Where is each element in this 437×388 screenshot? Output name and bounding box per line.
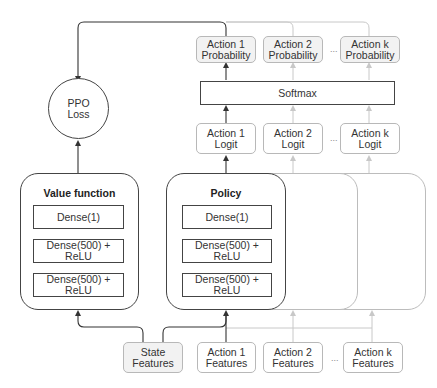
node-line2: Logit (207, 139, 245, 150)
value-layer-dense-500-b: Dense(500) + ReLU (33, 273, 124, 297)
probability-node-action-1: Action 1Probability (196, 36, 256, 63)
node-line1: Action 2 (272, 347, 313, 358)
policy-layer-dense-1: Dense(1) (182, 205, 272, 229)
node-line1: State (132, 347, 173, 358)
node-line1: Action 1 (206, 347, 247, 358)
node-line2: Logit (274, 139, 312, 150)
state-features-node: StateFeatures (123, 342, 183, 373)
logit-node-action-1: Action 1Logit (196, 123, 256, 154)
ppo-loss-line1: PPO (67, 98, 89, 109)
node-line2: Features (206, 358, 247, 369)
node-line1: Action 1 (201, 39, 250, 50)
probability-node-action-k: Action kProbability (340, 36, 400, 63)
ellipsis-logits: ... (330, 133, 338, 143)
ellipsis-features: ... (331, 353, 339, 363)
node-line2: Probability (268, 50, 317, 61)
node-line1: Action 2 (274, 128, 312, 139)
layer-label: Dense(500) + ReLU (183, 240, 271, 262)
node-line2: Features (352, 358, 393, 369)
policy-title: Policy (167, 187, 285, 199)
ppo-loss-line2: Loss (67, 109, 89, 120)
action-k-features-node: Action kFeatures (343, 342, 403, 373)
logit-node-action-k: Action kLogit (340, 123, 400, 154)
softmax-node: Softmax (200, 81, 395, 105)
node-line1: Action k (351, 128, 388, 139)
node-line2: Features (132, 358, 173, 369)
action-2-features-node: Action 2Features (263, 342, 323, 373)
policy-layer-dense-500-b: Dense(500) + ReLU (182, 273, 272, 297)
layer-label: Dense(500) + ReLU (183, 274, 271, 296)
node-line2: Logit (351, 139, 388, 150)
action-1-features-node: Action 1Features (197, 342, 256, 373)
layer-label: Dense(500) + ReLU (34, 240, 123, 262)
value-layer-dense-500-a: Dense(500) + ReLU (33, 239, 124, 263)
logit-node-action-2: Action 2Logit (263, 123, 323, 154)
node-line1: Action 1 (207, 128, 245, 139)
node-line2: Probability (201, 50, 250, 61)
layer-label: Dense(1) (205, 212, 248, 223)
node-line1: Action k (345, 39, 394, 50)
ppo-loss-node: PPO Loss (48, 78, 109, 139)
ellipsis-probabilities: ... (330, 44, 338, 54)
value-function-title: Value function (21, 187, 138, 199)
layer-label: Dense(1) (57, 212, 100, 223)
softmax-label: Softmax (278, 88, 317, 99)
node-line2: Probability (345, 50, 394, 61)
node-line2: Features (272, 358, 313, 369)
probability-node-action-2: Action 2Probability (263, 36, 323, 63)
value-layer-dense-1: Dense(1) (33, 205, 124, 229)
policy-layer-dense-500-a: Dense(500) + ReLU (182, 239, 272, 263)
node-line1: Action 2 (268, 39, 317, 50)
layer-label: Dense(500) + ReLU (34, 274, 123, 296)
node-line1: Action k (352, 347, 393, 358)
